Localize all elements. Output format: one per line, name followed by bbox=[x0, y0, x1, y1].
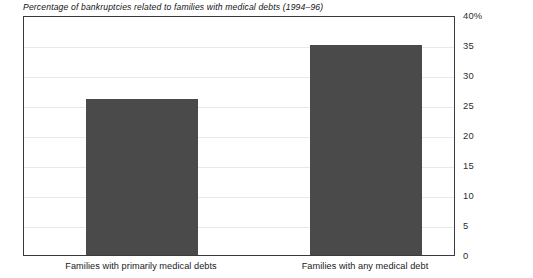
x-axis-category-label: Families with primarily medical debts bbox=[31, 260, 251, 272]
y-axis-tick-label: 30 bbox=[463, 71, 474, 81]
x-axis-category-label: Families with any medical debt bbox=[255, 260, 475, 272]
bar-chart-figure: Percentage of bankruptcies related to fa… bbox=[0, 0, 533, 278]
bar bbox=[310, 45, 422, 255]
y-axis-tick-label: 10 bbox=[463, 191, 474, 201]
bar bbox=[86, 99, 198, 255]
y-axis-tick-label: 35 bbox=[463, 41, 474, 51]
chart-title: Percentage of bankruptcies related to fa… bbox=[23, 1, 323, 13]
y-axis-tick-label: 15 bbox=[463, 161, 474, 171]
y-axis-tick-label: 40% bbox=[463, 11, 482, 21]
y-axis-tick-label: 20 bbox=[463, 131, 474, 141]
y-axis-tick-label: 25 bbox=[463, 101, 474, 111]
y-axis-tick-label: 5 bbox=[463, 221, 468, 231]
plot-area bbox=[23, 16, 455, 256]
